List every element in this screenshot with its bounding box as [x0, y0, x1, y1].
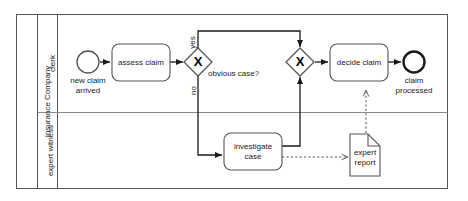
flow-label-no: no — [189, 76, 198, 106]
start-event-shape[interactable] — [77, 51, 99, 73]
task-assess-claim-label: assess claim — [112, 44, 170, 81]
bpmn-diagram-svg — [0, 0, 468, 201]
data-object-expert-report-label: expert report — [350, 140, 380, 176]
task-decide-claim-label: decide claim — [330, 44, 388, 81]
gateway-obvious-case-label: obvious case? — [208, 69, 259, 78]
lane-label-expert-witness: expert witness — [46, 106, 55, 196]
lane-label-clerk: clerk — [48, 19, 57, 109]
flow-label-yes: yes — [188, 28, 197, 58]
gateway-merge-symbol: X — [290, 55, 310, 68]
end-event-shape[interactable] — [404, 52, 425, 73]
bpmn-diagram-canvas: Insurance Company clerk expert witness n… — [0, 0, 468, 201]
task-investigate-case-label: investigate case — [224, 133, 282, 170]
